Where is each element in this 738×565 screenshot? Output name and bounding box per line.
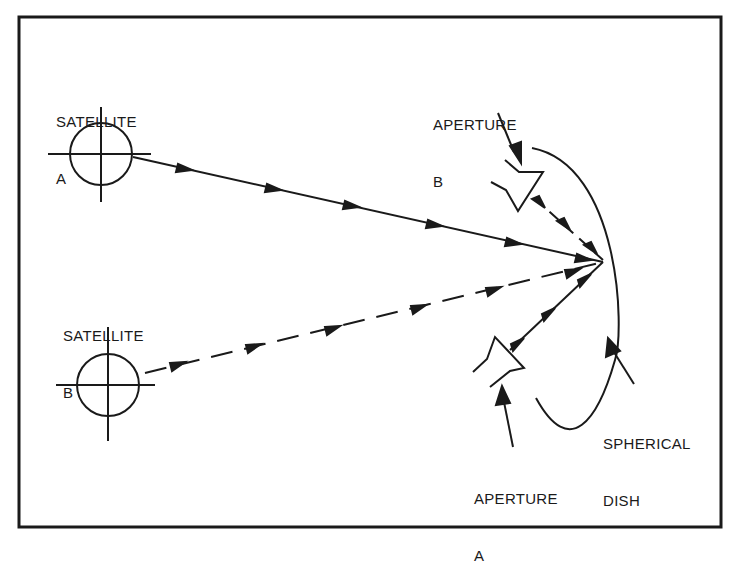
- satellite-b-label-line1: SATELLITE: [63, 326, 144, 345]
- satellite-b-label-line2: B: [63, 383, 144, 402]
- beam-a-reflected: [510, 262, 603, 351]
- aperture-b-label-line2: B: [433, 172, 517, 191]
- aperture-a-label-line1: APERTURE: [474, 489, 558, 508]
- spherical-dish-label: SPHERICAL DISH: [603, 396, 691, 529]
- aperture-a-label: APERTURE A: [474, 451, 558, 565]
- aperture-b-label: APERTURE B: [433, 77, 517, 210]
- satellite-a-label: SATELLITE A: [56, 74, 137, 207]
- spherical-dish-label-line2: DISH: [603, 491, 691, 510]
- aperture-a-label-line2: A: [474, 546, 558, 565]
- spherical-dish-label-line1: SPHERICAL: [603, 434, 691, 453]
- satellite-a-label-line2: A: [56, 169, 137, 188]
- beam-b-incident: [145, 262, 603, 373]
- satellite-b-label: SATELLITE B: [63, 288, 144, 421]
- beam-b-reflected: [532, 196, 603, 260]
- aperture-b-label-line1: APERTURE: [433, 115, 517, 134]
- satellite-a-label-line1: SATELLITE: [56, 112, 137, 131]
